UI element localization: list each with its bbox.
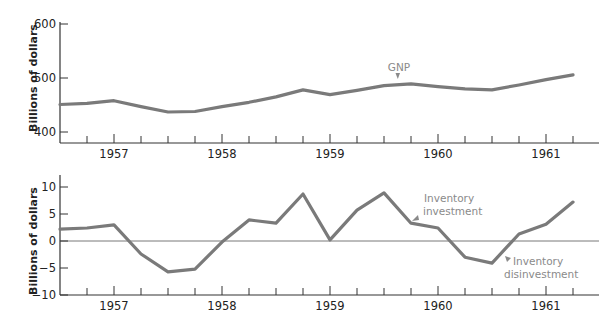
inventory-investment-annotation-line1: Inventory bbox=[424, 192, 474, 204]
inventory-disinvestment-annotation-line2: disinvestment bbox=[504, 268, 578, 280]
x-tick-label: 1958 bbox=[207, 147, 236, 161]
y-axis-label-bottom: Billions of dollars bbox=[27, 187, 40, 295]
x-tick-label: 1961 bbox=[531, 147, 560, 161]
gnp-annotation: GNP bbox=[388, 61, 410, 73]
y-tick-label: −10 bbox=[32, 288, 56, 302]
gnp-line bbox=[60, 75, 573, 112]
y-tick-label: −5 bbox=[39, 261, 56, 275]
x-tick-label: 1961 bbox=[531, 299, 560, 313]
disinvestment-arrow-icon bbox=[505, 256, 511, 262]
gnp-arrow-icon bbox=[396, 73, 401, 79]
x-tick-label: 1959 bbox=[315, 147, 344, 161]
x-ticks-bottom: 19571958195919601961 bbox=[87, 286, 573, 313]
y-tick-label: 400 bbox=[34, 125, 56, 139]
y-tick-label: 0 bbox=[49, 234, 56, 248]
gnp-chart: Billions of dollars 400500600 1957195819… bbox=[27, 17, 599, 161]
x-tick-label: 1958 bbox=[207, 299, 236, 313]
inventory-disinvestment-annotation-line1: Inventory bbox=[513, 255, 563, 267]
x-tick-label: 1959 bbox=[315, 299, 344, 313]
x-tick-label: 1957 bbox=[99, 299, 128, 313]
investment-arrow-icon bbox=[412, 215, 419, 221]
chart-canvas: Billions of dollars 400500600 1957195819… bbox=[0, 0, 614, 324]
x-ticks-top: 19571958195919601961 bbox=[87, 134, 573, 161]
y-tick-label: 5 bbox=[49, 207, 56, 221]
x-tick-label: 1960 bbox=[423, 299, 452, 313]
y-tick-label: 600 bbox=[34, 17, 56, 31]
inventory-chart: Billions of dollars −10−50510 1957195819… bbox=[27, 175, 599, 313]
x-tick-label: 1960 bbox=[423, 147, 452, 161]
inventory-investment-annotation-line2: investment bbox=[423, 205, 482, 217]
inventory-line bbox=[60, 193, 573, 272]
y-tick-label: 10 bbox=[41, 180, 56, 194]
y-tick-label: 500 bbox=[34, 71, 56, 85]
x-tick-label: 1957 bbox=[99, 147, 128, 161]
